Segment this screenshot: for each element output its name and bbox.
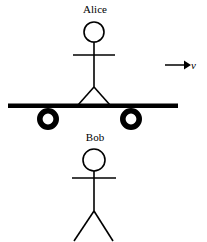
diagram-canvas: [0, 0, 207, 242]
physics-diagram: Alice Bob v: [0, 0, 207, 242]
cart-wheel-right: [123, 111, 139, 127]
cart-wheel-left: [40, 111, 56, 127]
alice-label: Alice: [0, 4, 190, 15]
bob-leg-left: [74, 211, 94, 241]
alice-head-icon: [84, 22, 104, 42]
bob-head-icon: [83, 149, 105, 171]
bob-label: Bob: [0, 132, 190, 143]
alice-stick-figure: [73, 22, 115, 105]
bob-leg-right: [94, 211, 113, 241]
velocity-arrow-head-icon: [184, 61, 191, 70]
bob-stick-figure: [72, 149, 116, 241]
cart-platform: [8, 104, 178, 109]
cart-wheels: [40, 111, 139, 127]
alice-leg-right: [94, 87, 110, 105]
velocity-arrow: [165, 61, 191, 70]
velocity-label: v: [191, 60, 196, 71]
alice-leg-left: [78, 87, 94, 105]
